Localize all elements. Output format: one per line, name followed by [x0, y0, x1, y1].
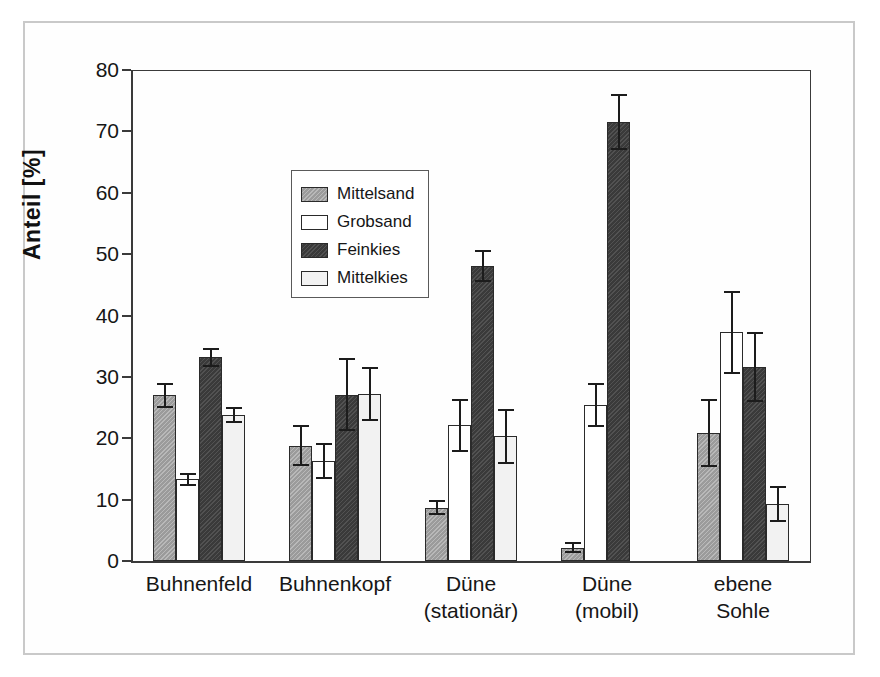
error-bar-cap	[701, 399, 717, 401]
legend-label: Grobsand	[337, 212, 412, 232]
x-tick-label-line: Buhnenfeld	[131, 570, 267, 597]
x-tick-label: Buhnenfeld	[131, 570, 267, 597]
error-bar-cap	[747, 400, 763, 402]
error-bar-cap	[747, 332, 763, 334]
error-bar-cap	[770, 520, 786, 522]
bar	[607, 122, 630, 561]
error-bar-cap	[180, 473, 196, 475]
x-tick-label: Düne(stationär)	[403, 570, 539, 624]
y-tick-label: 30	[96, 366, 119, 387]
error-bar	[777, 487, 779, 521]
legend-swatch-feinkies-icon	[301, 243, 328, 258]
bar	[584, 405, 607, 561]
error-bar-cap	[724, 291, 740, 293]
error-bar	[482, 251, 484, 280]
error-bar-cap	[157, 406, 173, 408]
bar	[153, 395, 176, 561]
error-bar-cap	[339, 429, 355, 431]
error-bar-cap	[452, 399, 468, 401]
x-tick-label-line: (mobil)	[539, 597, 675, 624]
error-bar-cap	[203, 348, 219, 350]
error-bar	[731, 292, 733, 373]
error-bar	[346, 359, 348, 430]
y-tick	[122, 192, 131, 194]
figure: Mittelsand Grobsand Feinkies Mittelkies …	[0, 0, 880, 677]
y-tick	[122, 437, 131, 439]
error-bar-cap	[226, 421, 242, 423]
error-bar-cap	[362, 419, 378, 421]
y-tick	[122, 130, 131, 132]
y-tick	[122, 499, 131, 501]
x-tick-label-line: Düne	[539, 570, 675, 597]
error-bar	[323, 444, 325, 477]
error-bar	[233, 408, 235, 423]
y-axis-title: Anteil [%]	[19, 149, 46, 260]
x-tick-label-line: Sohle	[675, 597, 811, 624]
y-tick	[122, 315, 131, 317]
error-bar-cap	[316, 477, 332, 479]
y-tick-label: 70	[96, 120, 119, 141]
bar	[176, 479, 199, 561]
y-tick	[122, 376, 131, 378]
error-bar-cap	[611, 94, 627, 96]
error-bar-cap	[203, 365, 219, 367]
x-tick-label-line: Düne	[403, 570, 539, 597]
plot-area: Mittelsand Grobsand Feinkies Mittelkies …	[131, 70, 811, 563]
y-axis-spine	[131, 70, 133, 563]
error-bar-cap	[316, 443, 332, 445]
error-bar	[459, 400, 461, 452]
legend-item: Feinkies	[292, 236, 428, 264]
legend-swatch-mittelsand-icon	[301, 187, 328, 202]
error-bar-cap	[293, 464, 309, 466]
y-tick-label: 20	[96, 427, 119, 448]
bar	[199, 357, 222, 561]
legend-item: Grobsand	[292, 208, 428, 236]
error-bar-cap	[770, 486, 786, 488]
legend-item: Mittelsand	[292, 180, 428, 208]
error-bar-cap	[475, 280, 491, 282]
error-bar-cap	[226, 407, 242, 409]
x-axis-tick-labels: BuhnenfeldBuhnenkopfDüne(stationär)Düne(…	[131, 570, 811, 650]
error-bar-cap	[611, 148, 627, 150]
x-tick-label: Düne(mobil)	[539, 570, 675, 624]
x-tick-label-line: (stationär)	[403, 597, 539, 624]
legend-item: Mittelkies	[292, 264, 428, 292]
error-bar-cap	[565, 542, 581, 544]
error-bar	[505, 410, 507, 463]
error-bar-cap	[157, 383, 173, 385]
error-bar-cap	[701, 465, 717, 467]
error-bar-cap	[498, 409, 514, 411]
y-tick-label: 40	[96, 305, 119, 326]
y-tick-label: 0	[107, 550, 119, 571]
error-bar	[595, 384, 597, 426]
error-bar-cap	[429, 513, 445, 515]
error-bar	[369, 368, 371, 421]
error-bar-cap	[452, 450, 468, 452]
y-tick	[122, 560, 131, 562]
y-tick-label: 50	[96, 243, 119, 264]
y-tick-label: 80	[96, 59, 119, 80]
error-bar-cap	[588, 383, 604, 385]
legend-label: Feinkies	[337, 240, 400, 260]
error-bar	[618, 95, 620, 149]
error-bar-cap	[498, 462, 514, 464]
legend-label: Mittelsand	[337, 184, 414, 204]
error-bar	[708, 400, 710, 466]
error-bar-cap	[724, 372, 740, 374]
y-tick	[122, 69, 131, 71]
bar	[425, 508, 448, 561]
error-bar	[210, 349, 212, 366]
bar	[222, 415, 245, 561]
error-bar	[754, 333, 756, 402]
x-tick-label: ebeneSohle	[675, 570, 811, 624]
legend-swatch-grobsand-icon	[301, 215, 328, 230]
error-bar-cap	[293, 425, 309, 427]
error-bar	[300, 426, 302, 465]
plot-top-spine	[131, 70, 811, 71]
y-tick	[122, 253, 131, 255]
legend-label: Mittelkies	[337, 268, 408, 288]
x-tick-label-line: ebene	[675, 570, 811, 597]
error-bar-cap	[180, 484, 196, 486]
error-bar-cap	[429, 500, 445, 502]
y-axis-tick-labels: 01020304050607080	[49, 70, 119, 563]
